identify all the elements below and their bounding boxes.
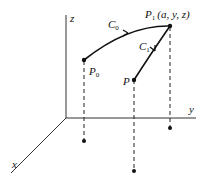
point-p0 [82, 58, 86, 62]
y-axis-label: y [188, 103, 194, 115]
p1-foot-dot [168, 126, 172, 130]
x-axis-label: x [11, 158, 17, 170]
p-label: P [122, 75, 130, 87]
path-diagram: z y x P0 P1(a, y, z) P C0 C1 [0, 0, 209, 183]
c0-arrow-icon [123, 30, 128, 36]
p-foot-dot [132, 169, 136, 173]
c1-label: C1 [139, 40, 150, 54]
p0-label: P0 [88, 65, 100, 79]
curve-c0 [84, 26, 170, 60]
x-axis [11, 118, 66, 173]
p1-label: P1(a, y, z) [144, 8, 190, 22]
z-axis-label: z [69, 12, 75, 24]
point-p1 [168, 24, 172, 28]
p0-foot-dot [82, 139, 86, 143]
curve-c1 [134, 26, 170, 80]
point-p [132, 78, 136, 82]
c0-label: C0 [108, 18, 119, 32]
